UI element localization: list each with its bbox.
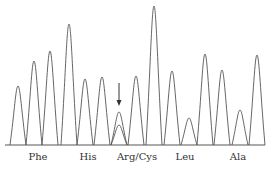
- chromatogram-chart: [0, 0, 267, 175]
- peak-5: [77, 79, 93, 145]
- peak-9: [146, 6, 162, 145]
- peak-12: [197, 54, 213, 145]
- peak-11: [181, 118, 197, 145]
- peak-13: [214, 70, 230, 145]
- codon-label: Leu: [176, 151, 195, 162]
- peak-4: [61, 24, 77, 145]
- peak-6: [94, 77, 110, 145]
- codon-label: His: [79, 151, 96, 162]
- codon-label: Phe: [28, 151, 47, 162]
- peak-14: [232, 110, 248, 145]
- peak-traces: [10, 6, 265, 145]
- peak-2: [26, 61, 42, 145]
- arrow-down-icon: [117, 100, 122, 106]
- peak-1: [10, 86, 26, 145]
- codon-label: Ala: [230, 151, 246, 162]
- arrow-annotation: [117, 83, 122, 106]
- peak-8: [128, 76, 144, 145]
- peak-7: [111, 112, 127, 145]
- peak-10: [164, 71, 180, 145]
- peak-15: [249, 55, 265, 145]
- peak-3: [42, 51, 58, 145]
- codon-label: Arg/Cys: [117, 151, 157, 162]
